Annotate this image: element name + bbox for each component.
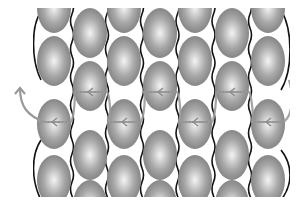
bead bbox=[107, 36, 141, 86]
bead bbox=[251, 36, 285, 86]
peyote-stitch-illustration bbox=[0, 0, 308, 207]
bead bbox=[73, 180, 107, 207]
bead bbox=[215, 8, 249, 58]
bead bbox=[143, 61, 177, 111]
bead bbox=[73, 8, 107, 58]
bead bbox=[178, 0, 212, 33]
bead bbox=[143, 8, 177, 58]
bead bbox=[143, 180, 177, 207]
bead bbox=[251, 0, 285, 33]
bead bbox=[73, 61, 107, 111]
beadwork-diagram bbox=[0, 0, 308, 207]
bead bbox=[251, 155, 285, 205]
bead bbox=[215, 180, 249, 207]
bead bbox=[37, 155, 71, 205]
bead bbox=[37, 0, 71, 33]
bead bbox=[215, 61, 249, 111]
bead bbox=[37, 36, 71, 86]
bead bbox=[178, 36, 212, 86]
bead bbox=[107, 155, 141, 205]
bead bbox=[107, 0, 141, 33]
bead bbox=[215, 130, 249, 180]
bead bbox=[178, 155, 212, 205]
bead bbox=[73, 130, 107, 180]
bead bbox=[143, 130, 177, 180]
